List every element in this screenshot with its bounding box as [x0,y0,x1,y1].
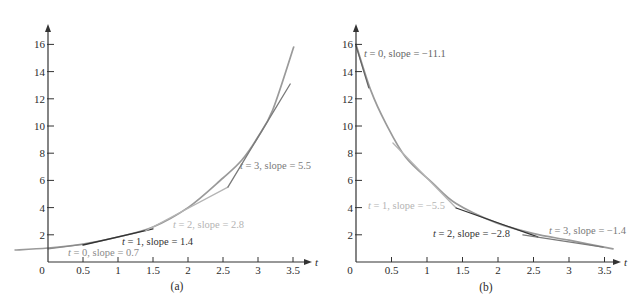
y-tick-label: 12 [34,93,45,105]
y-tick-label: 14 [34,66,46,78]
y-tick-label: 2 [348,229,354,241]
tangent-line-t3 [228,84,290,187]
x-axis-label: t [624,256,628,268]
tangent-label-t0: t = 0, slope = −11.1 [364,48,446,59]
tangent-label-t0: t = 0, slope = 0.7 [68,247,139,258]
tangent-label-t1: t = 1, slope = −5.5 [368,200,445,211]
x-tick-label: 3 [566,264,572,276]
panel-a: t2468101214160.511.522.533.50t = 0, slop… [15,24,319,276]
x-tick-label: 1.5 [146,264,160,276]
y-tick-label: 12 [342,93,353,105]
caption-b: (b) [479,281,493,294]
panel-b: t2468101214160.511.522.533.50t = 0, slop… [342,24,628,276]
tangent-line-t1 [393,143,456,208]
tangent-label-t1: t = 1, slope = 1.4 [122,236,194,247]
y-tick-label: 4 [40,202,46,214]
x-axis-arrow-icon [613,259,621,265]
tangent-label-t3: t = 3, slope = −1.4 [549,225,627,236]
x-tick-label: 3.5 [598,264,612,276]
x-tick-label: 2 [185,264,191,276]
x-tick-label: 0.5 [385,264,399,276]
y-tick-label: 8 [348,147,354,159]
y-tick-label: 14 [342,66,354,78]
y-tick-label: 10 [34,120,46,132]
x-axis-label: t [315,256,319,268]
x-tick-label: 2 [495,264,501,276]
origin-label: 0 [347,264,353,276]
x-tick-label: 2.5 [216,264,230,276]
y-tick-label: 4 [348,202,354,214]
x-tick-label: 1 [115,264,121,276]
tangent-label-t2: t = 2, slope = −2.8 [433,228,510,239]
y-tick-label: 6 [348,174,354,186]
y-tick-label: 10 [342,120,354,132]
y-axis-arrow-icon [45,24,51,32]
x-tick-label: 1.5 [456,264,470,276]
x-axis-arrow-icon [304,259,312,265]
tangent-slope-figure: t2468101214160.511.522.533.50t = 0, slop… [0,0,636,299]
y-tick-label: 16 [34,38,46,50]
x-tick-label: 1 [424,264,430,276]
y-tick-label: 2 [40,229,46,241]
tangent-line-t3 [523,235,603,247]
y-axis-arrow-icon [353,24,359,32]
x-tick-label: 0.5 [76,264,90,276]
y-tick-label: 16 [342,38,354,50]
x-tick-label: 3 [255,264,261,276]
y-tick-label: 6 [40,174,46,186]
x-tick-label: 3.5 [286,264,300,276]
caption-a: (a) [171,280,184,293]
y-tick-label: 8 [40,147,46,159]
tangent-label-t3: t = 3, slope = 5.5 [240,160,311,171]
x-tick-label: 2.5 [527,264,541,276]
origin-label: 0 [39,264,45,276]
tangent-label-t2: t = 2, slope = 2.8 [173,219,244,230]
